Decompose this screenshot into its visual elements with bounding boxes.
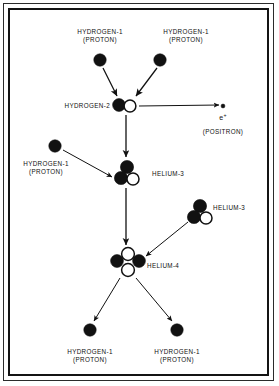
nucleus-he3-center (114, 160, 139, 185)
diagram-canvas (0, 0, 279, 386)
label-primary: HYDROGEN-1 (77, 28, 122, 35)
label-primary: HYDROGEN-2 (65, 102, 110, 109)
neutron-circle (124, 100, 136, 112)
label-primary: HELIUM-4 (147, 262, 179, 269)
proton-circle (111, 255, 124, 268)
label-he3-center: HELIUM-3 (152, 170, 184, 178)
proton-circle (49, 140, 61, 152)
nucleus-h1-top-right (154, 54, 166, 66)
label-secondary: (PROTON) (163, 36, 208, 44)
neutron-circle (127, 173, 139, 185)
arrow-h1left-to-he3 (63, 150, 112, 177)
label-primary: HYDROGEN-1 (154, 348, 199, 355)
nucleus-h2 (113, 99, 136, 112)
nucleus-h1-bottom-right (171, 324, 183, 336)
label-primary: HYDROGEN-1 (67, 348, 112, 355)
proton-circle (133, 255, 146, 268)
label-secondary: (PROTON) (67, 356, 112, 364)
neutron-circle (200, 212, 212, 224)
proton-circle (94, 54, 106, 66)
proton-circle (154, 54, 166, 66)
arrow-he4-to-h1br (136, 278, 172, 321)
nucleus-he4 (111, 248, 146, 277)
arrow-he4-to-h1bl (94, 278, 120, 321)
label-primary: HELIUM-3 (213, 204, 245, 211)
label-he4: HELIUM-4 (147, 262, 179, 270)
label-primary: HYDROGEN-1 (163, 28, 208, 35)
label-primary: HELIUM-3 (152, 170, 184, 177)
proton-circle (221, 104, 225, 108)
fusion-chain-figure: HYDROGEN-1(PROTON)HYDROGEN-1(PROTON)HYDR… (0, 0, 279, 386)
nucleus-he3-right (187, 199, 212, 224)
arrow-he3right-to-he4 (146, 222, 188, 256)
positron-charge-glyph: + (223, 112, 226, 118)
neutron-circle (122, 264, 135, 277)
label-h1-top-right: HYDROGEN-1(PROTON) (163, 28, 208, 44)
arrow-h1tr-to-h2 (136, 68, 157, 96)
nucleus-h1-left (49, 140, 61, 152)
label-h2: HYDROGEN-2 (65, 102, 110, 110)
neutron-circle (122, 248, 135, 261)
nucleus-h1-bottom-left (84, 324, 96, 336)
proton-circle (84, 324, 96, 336)
label-positron: (POSITRON) (203, 128, 244, 136)
positron-symbol: e+ (219, 112, 226, 121)
proton-circle (171, 324, 183, 336)
label-secondary: (PROTON) (23, 168, 68, 176)
label-h1-left: HYDROGEN-1(PROTON) (23, 160, 68, 176)
label-h1-bottom-left: HYDROGEN-1(PROTON) (67, 348, 112, 364)
proton-circle (187, 210, 200, 223)
nucleus-h1-top-left (94, 54, 106, 66)
label-primary: HYDROGEN-1 (23, 160, 68, 167)
particle-layer (49, 54, 225, 336)
nucleus-positron (221, 104, 225, 108)
label-primary: (POSITRON) (203, 128, 244, 135)
arrow-h2-to-positron (139, 105, 219, 106)
label-secondary: (PROTON) (77, 36, 122, 44)
arrow-h1tl-to-h2 (103, 68, 117, 96)
label-he3-right: HELIUM-3 (213, 204, 245, 212)
label-h1-top-left: HYDROGEN-1(PROTON) (77, 28, 122, 44)
proton-circle (114, 171, 127, 184)
label-secondary: (PROTON) (154, 356, 199, 364)
label-h1-bottom-right: HYDROGEN-1(PROTON) (154, 348, 199, 364)
